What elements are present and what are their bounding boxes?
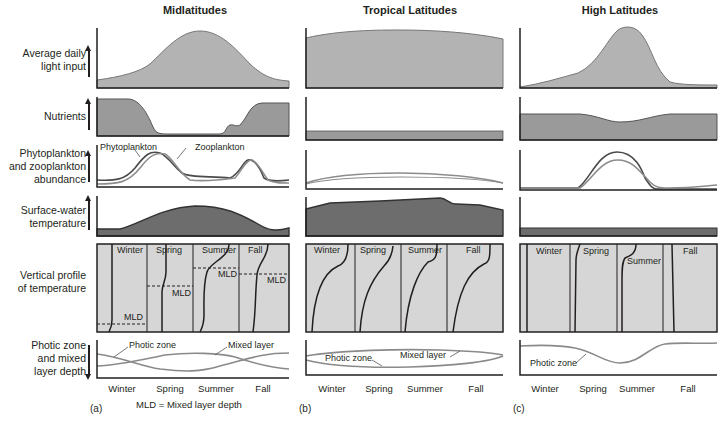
season-label-spring: Spring	[360, 245, 386, 255]
zooplankton-label: Zooplankton	[195, 142, 245, 152]
season-label-fall: Fall	[683, 246, 698, 256]
axis-season-fall-b: Fall	[446, 383, 506, 394]
panel-high: Winter Spring Summer Fall Photic zone	[520, 27, 717, 375]
axis-season-fall-c: Fall	[658, 383, 718, 394]
season-label-spring: Spring	[583, 246, 609, 256]
panel-letter-a: (a)	[90, 403, 102, 414]
season-label-winter: Winter	[117, 245, 143, 255]
season-label-spring: Spring	[156, 245, 182, 255]
mld-label-winter: MLD	[124, 312, 144, 322]
panel-midlatitudes: Phytoplankton Zooplankton MLD MLD MLD ML…	[97, 28, 289, 378]
season-label-fall: Fall	[248, 245, 263, 255]
photic-zone-label: Photic zone	[530, 358, 577, 368]
mixed-layer-label: Mixed layer	[228, 340, 274, 350]
panel-tropical: Winter Spring Summer Fall Photic zone Mi…	[306, 28, 503, 375]
panel-letter-b: (b)	[299, 403, 311, 414]
season-label-summer: Summer	[202, 245, 236, 255]
season-label-summer: Summer	[408, 245, 442, 255]
phytoplankton-label: Phytoplankton	[100, 142, 157, 152]
mixed-layer-label: Mixed layer	[400, 350, 446, 360]
season-label-fall: Fall	[466, 245, 481, 255]
photic-zone-label: Photic zone	[129, 340, 176, 350]
mld-label-summer: MLD	[218, 269, 238, 279]
season-label-winter: Winter	[314, 245, 340, 255]
mld-label-fall: MLD	[267, 275, 287, 285]
axis-season-fall-a: Fall	[233, 383, 293, 394]
season-label-winter: Winter	[536, 246, 562, 256]
mld-legend: MLD = Mixed layer depth	[136, 399, 242, 410]
season-label-summer: Summer	[627, 256, 661, 266]
panel-letter-c: (c)	[513, 403, 525, 414]
diagram-canvas: Phytoplankton Zooplankton MLD MLD MLD ML…	[0, 0, 724, 421]
photic-zone-label: Photic zone	[325, 353, 372, 363]
mld-label-spring: MLD	[172, 288, 192, 298]
